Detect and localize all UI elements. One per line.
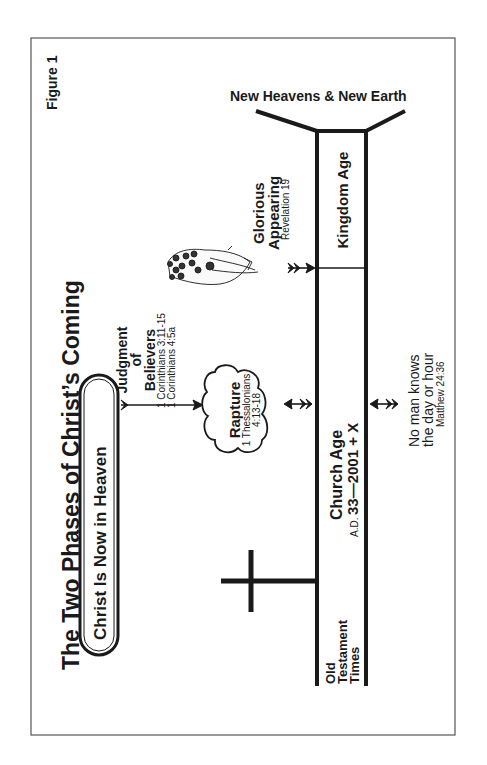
judgment-of-believers: Judgment of Believers 1 Corinthians 3:11…	[114, 313, 177, 408]
glorious-arrow	[288, 263, 315, 273]
svg-text:the day or hour: the day or hour	[420, 352, 436, 447]
saints-illustration	[168, 246, 259, 285]
no-man-knows-arrow	[370, 399, 398, 409]
svg-text:Revelation 19: Revelation 19	[280, 178, 291, 240]
christ-in-heaven-pill: Christ Is Now in Heaven	[80, 375, 118, 655]
svg-text:A.D.: A.D.	[349, 518, 360, 537]
cross-icon	[221, 550, 317, 612]
glorious-appearing: Glorious Appearing Revelation 19	[250, 176, 291, 250]
rapture-cloud: Rapture 1 Thessalonians 4:13-18	[202, 365, 267, 452]
no-man-knows: No man knows the day or hour Matthew 24:…	[406, 352, 446, 447]
rapture-arrow	[284, 399, 312, 409]
svg-text:Matthew 24:36: Matthew 24:36	[435, 361, 446, 427]
figure-label: Figure 1	[44, 55, 60, 110]
rapture-ref-2: 4:13-18	[251, 393, 262, 427]
svg-text:1 Corinthians 4:5a: 1 Corinthians 4:5a	[166, 326, 177, 408]
svg-text:Times: Times	[347, 647, 362, 684]
diagram-canvas: Figure 1 The Two Phases of Christ’s Comi…	[0, 0, 487, 765]
kingdom-age-label: Kingdom Age	[334, 152, 351, 249]
svg-text:33—2001 + X: 33—2001 + X	[344, 423, 361, 515]
church-age-dates: A.D. 33—2001 + X	[344, 423, 361, 537]
pill-text: Christ Is Now in Heaven	[91, 446, 110, 640]
old-testament-label: Old Testament Times	[323, 619, 362, 684]
church-age-label: Church Age	[328, 430, 345, 520]
new-heavens-label: New Heavens & New Earth	[230, 88, 407, 104]
